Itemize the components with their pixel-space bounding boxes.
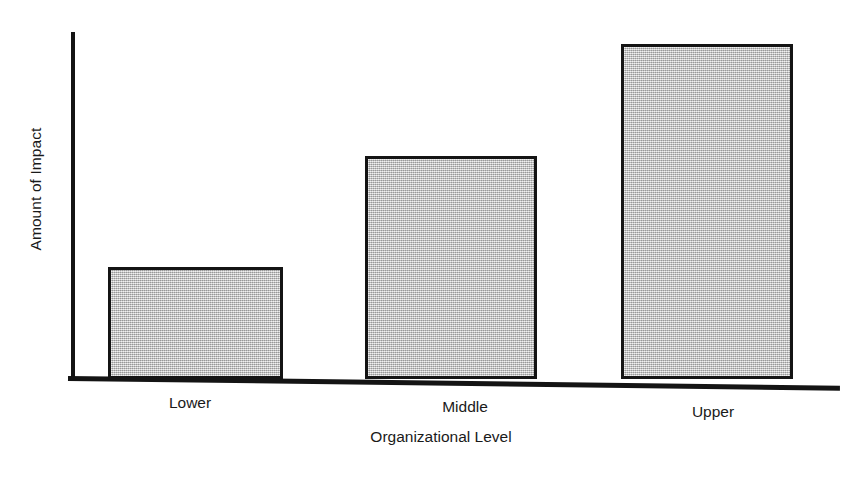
x-tick-label-upper: Upper — [653, 403, 773, 421]
bar-middle — [365, 156, 537, 379]
y-axis-title: Amount of Impact — [27, 109, 45, 269]
bar-chart-figure: Amount of Impact Lower Middle Upper Orga… — [0, 0, 849, 481]
x-tick-label-lower: Lower — [130, 394, 250, 412]
x-tick-label-middle: Middle — [405, 398, 525, 416]
bar-upper — [621, 44, 793, 379]
x-axis-title: Organizational Level — [330, 428, 552, 446]
y-axis-line — [71, 32, 75, 379]
bar-lower — [108, 267, 283, 379]
